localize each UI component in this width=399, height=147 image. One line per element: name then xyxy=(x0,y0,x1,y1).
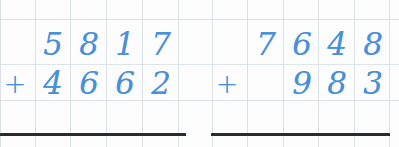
addend1-digit-ones-right: 8 xyxy=(355,29,391,60)
addend2-digit-tens-right: 8 xyxy=(319,68,355,99)
addend2-digit-thousands-left: 4 xyxy=(35,68,71,99)
addend1-digit-hundreds-left: 8 xyxy=(71,29,107,60)
vertical-addition-worksheet: + 5 8 1 7 4 6 6 2 + 7 6 4 8 9 8 3 xyxy=(0,0,399,147)
plus-operator-right: + xyxy=(212,70,242,97)
addend1-digit-hundreds-right: 6 xyxy=(284,29,320,60)
addend1-digit-tens-right: 4 xyxy=(319,29,355,60)
answer-rule-left xyxy=(0,133,186,136)
addend2-digit-ones-right: 3 xyxy=(355,68,391,99)
addend2-digit-ones-left: 2 xyxy=(143,68,179,99)
addend2-digit-hundreds-left: 6 xyxy=(71,68,107,99)
plus-operator-left: + xyxy=(0,70,30,97)
addend1-digit-ones-left: 7 xyxy=(143,29,179,60)
grid-vertical-line xyxy=(247,0,248,147)
addend1-digit-tens-left: 1 xyxy=(107,29,143,60)
addend2-digit-hundreds-right: 9 xyxy=(284,68,320,99)
addend2-digit-tens-left: 6 xyxy=(107,68,143,99)
grid-horizontal-line xyxy=(0,19,399,20)
addend1-digit-thousands-right: 7 xyxy=(248,29,284,60)
addend1-digit-thousands-left: 5 xyxy=(35,29,71,60)
answer-rule-right xyxy=(211,133,390,136)
